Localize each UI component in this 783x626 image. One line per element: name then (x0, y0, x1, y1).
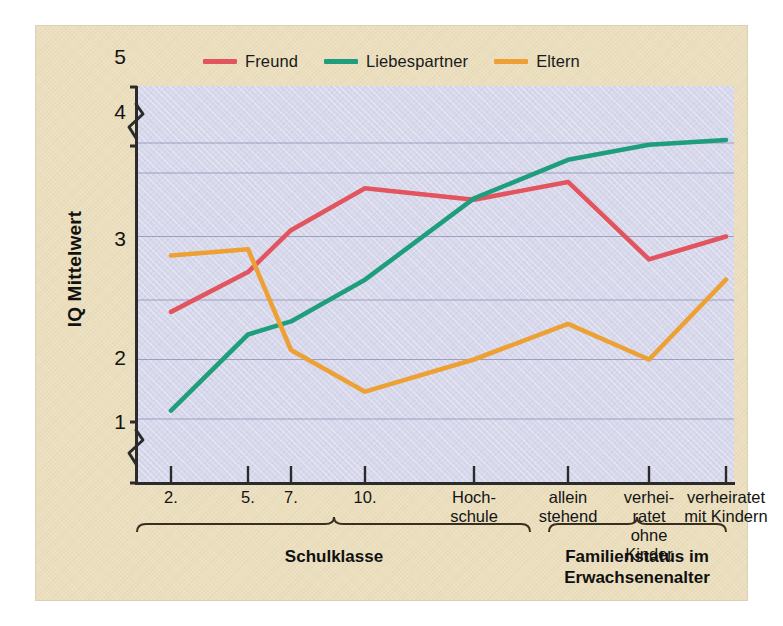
y-tick-5: 5 (92, 45, 126, 69)
series-line-liebespartner (171, 140, 726, 411)
x-tick-label-5: 5. (228, 488, 268, 507)
y-tick-1: 1 (92, 410, 126, 434)
y-tick-2: 2 (92, 346, 126, 370)
legend-item-liebespartner[interactable]: Liebespartner (324, 52, 468, 71)
y-axis-line (135, 86, 138, 484)
legend-item-freund[interactable]: Freund (203, 52, 298, 71)
series-lines (171, 140, 726, 411)
gridlines (136, 143, 734, 419)
plot-svg (136, 86, 734, 483)
x-tick-label-hochschule: Hoch- schule (431, 488, 517, 526)
group-label-schulklasse: Schulklasse (234, 546, 434, 567)
legend-swatch-freund (203, 59, 237, 64)
chart-legend: Freund Liebespartner Eltern (36, 52, 747, 71)
legend-swatch-liebespartner (324, 59, 358, 64)
legend-label-liebespartner: Liebespartner (366, 52, 468, 71)
x-tick-label-allein-stehend: allein stehend (525, 488, 611, 526)
x-tick-label-7: 7. (271, 488, 311, 507)
x-tick-label-verheiratet-mit-kindern: verheiratet mit Kindern (678, 488, 774, 526)
legend-label-eltern: Eltern (536, 52, 580, 71)
x-tick-label-10: 10. (343, 488, 387, 507)
x-tick-label-2: 2. (151, 488, 191, 507)
series-line-eltern (171, 249, 726, 391)
series-line-freund (171, 182, 726, 312)
chart-figure: Freund Liebespartner Eltern IQ Mittelwer… (36, 26, 747, 600)
y-tick-3: 3 (92, 227, 126, 251)
y-axis-ticks: 5 4 3 2 1 (80, 26, 126, 600)
legend-label-freund: Freund (245, 52, 298, 71)
x-axis-line (135, 482, 735, 485)
y-tick-4: 4 (92, 100, 126, 124)
legend-item-eltern[interactable]: Eltern (494, 52, 580, 71)
plot-area (136, 86, 734, 483)
group-label-familienstatus: Familienstatus im Erwachsenenalter (537, 546, 737, 588)
legend-swatch-eltern (494, 59, 528, 64)
